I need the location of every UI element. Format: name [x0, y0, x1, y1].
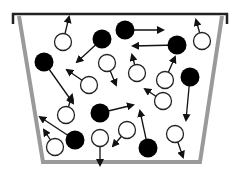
particles: [35, 21, 211, 158]
filled-particle: [181, 68, 200, 87]
filled-particle: [116, 21, 135, 40]
filled-particle: [139, 139, 158, 158]
filled-particle: [168, 36, 187, 55]
open-particle: [47, 139, 64, 156]
filled-particle: [35, 53, 54, 72]
filled-particle: [93, 30, 112, 49]
filled-particle: [91, 104, 110, 123]
filled-particle: [66, 131, 85, 150]
open-particle: [155, 93, 172, 110]
open-particle: [81, 77, 98, 94]
open-particle: [157, 72, 174, 89]
open-particle: [194, 33, 211, 50]
open-particle: [92, 130, 109, 147]
open-particle: [119, 122, 136, 139]
open-particle: [99, 55, 116, 72]
open-particle: [58, 107, 75, 124]
particle-diagram: [0, 0, 236, 181]
open-particle: [55, 34, 72, 51]
container-diagram-canvas: [0, 0, 236, 181]
open-particle: [129, 65, 146, 82]
open-particle: [167, 126, 184, 143]
